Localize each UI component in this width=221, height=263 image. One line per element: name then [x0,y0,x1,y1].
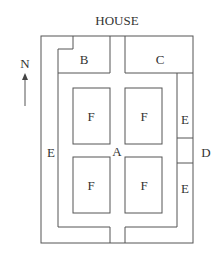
label-f-bottom-left: F [87,178,94,193]
label-e-right-top: E [181,112,189,127]
label-e-left: E [47,145,55,160]
label-f-top-right: F [140,109,147,124]
compass-label: N [20,56,30,71]
label-e-right-bottom: E [181,181,189,196]
diagram-title: HOUSE [95,13,138,28]
label-d: D [201,145,210,160]
label-c: C [156,52,165,67]
label-f-bottom-right: F [140,178,147,193]
outer-boundary [41,36,193,243]
label-b: B [80,52,89,67]
garden-plan-diagram: HOUSE N B C E E E D A F F F F [0,0,221,263]
north-arrow-icon [22,73,28,106]
label-a: A [112,144,122,159]
label-f-top-left: F [87,109,94,124]
inner-path-right [125,73,177,243]
inner-path-left [58,73,110,243]
